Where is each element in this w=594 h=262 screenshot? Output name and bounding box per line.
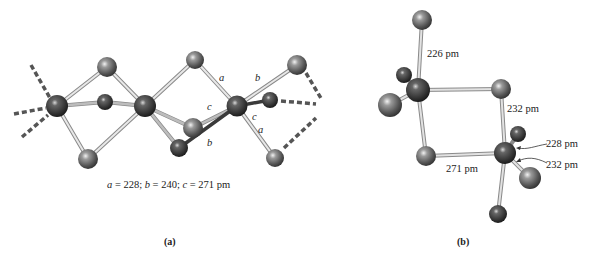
bond-label-c-left: c	[207, 102, 212, 113]
bond-label-b-lower: b	[207, 138, 212, 149]
atom	[78, 149, 98, 169]
atom	[378, 93, 402, 117]
atom	[510, 126, 526, 142]
caption-c-value: = 271 pm	[187, 179, 230, 190]
atom	[489, 205, 507, 223]
panel-a-caption: a = 228; b = 240; c = 271 pm	[107, 180, 230, 191]
atom	[519, 167, 541, 189]
arrowheads	[516, 146, 521, 162]
central-atom	[494, 142, 516, 164]
atom	[183, 118, 203, 138]
atom	[412, 10, 432, 30]
distance-271: 271 pm	[446, 164, 478, 175]
bond-label-a-upper: a	[219, 73, 224, 84]
central-atom	[227, 96, 248, 117]
atom	[186, 51, 204, 69]
panel-b-atoms	[378, 10, 541, 223]
atom	[266, 149, 284, 167]
atom	[287, 55, 307, 75]
bond-label-b-upper: b	[255, 73, 260, 84]
panel-b-bonds	[390, 20, 530, 214]
central-atom	[406, 78, 430, 102]
atom	[97, 94, 113, 110]
atom	[170, 139, 188, 157]
bond-label-a-lower: a	[258, 125, 263, 136]
atom	[491, 79, 511, 99]
structure-diagram	[0, 0, 594, 262]
atom	[262, 92, 278, 108]
central-atom	[134, 95, 156, 117]
distance-232-arrow: 232 pm	[546, 160, 578, 171]
atom	[396, 67, 412, 83]
distance-228: 228 pm	[546, 139, 578, 150]
caption-b-value: = 240;	[150, 179, 182, 190]
atom	[416, 146, 436, 166]
central-atom	[46, 95, 68, 117]
caption-a-value: = 228;	[112, 179, 144, 190]
panel-b-label: (b)	[457, 236, 469, 247]
panel-a-label: (a)	[164, 236, 176, 247]
bond-label-c-right: c	[252, 112, 257, 123]
distance-226: 226 pm	[427, 49, 459, 60]
annotation-arrows	[518, 144, 547, 163]
distance-232-right: 232 pm	[507, 104, 539, 115]
atom	[97, 57, 117, 77]
